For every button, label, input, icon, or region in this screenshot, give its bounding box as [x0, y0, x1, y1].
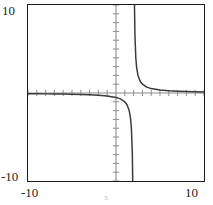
chart-figure: 10 -10 -10 10 x — [0, 0, 213, 205]
plot-svg — [28, 5, 204, 181]
x-axis-max-label: 10 — [185, 186, 198, 199]
x-axis-min-label: -10 — [21, 186, 38, 199]
y-axis-min-label: -10 — [1, 170, 18, 183]
curve-branch-right — [134, 5, 204, 92]
plot-frame — [27, 4, 205, 182]
x-axis-title: x — [104, 193, 109, 202]
y-axis-max-label: 10 — [2, 4, 15, 17]
